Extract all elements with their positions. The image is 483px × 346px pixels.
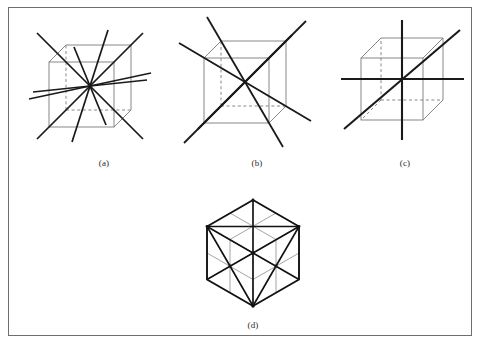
figure-frame: (a)	[8, 7, 472, 336]
three-fold-axes-b	[179, 17, 311, 147]
panel-a-drawing	[9, 8, 189, 173]
panel-a	[9, 8, 189, 168]
panel-c-drawing	[319, 8, 483, 173]
four-fold-axes-c	[341, 20, 464, 140]
panel-d-drawing	[149, 183, 359, 333]
panel-b	[164, 8, 344, 168]
panel-a-caption: (a)	[79, 158, 129, 168]
panel-d	[149, 183, 359, 333]
panel-d-caption: (d)	[228, 320, 278, 330]
panel-c	[319, 8, 483, 168]
panel-b-drawing	[164, 8, 344, 173]
panel-c-caption: (c)	[380, 158, 430, 168]
figure-container: (a)	[0, 0, 483, 346]
two-fold-axes-a	[29, 30, 151, 142]
three-fold-axis-b-4	[207, 17, 283, 147]
panel-b-caption: (b)	[232, 158, 282, 168]
